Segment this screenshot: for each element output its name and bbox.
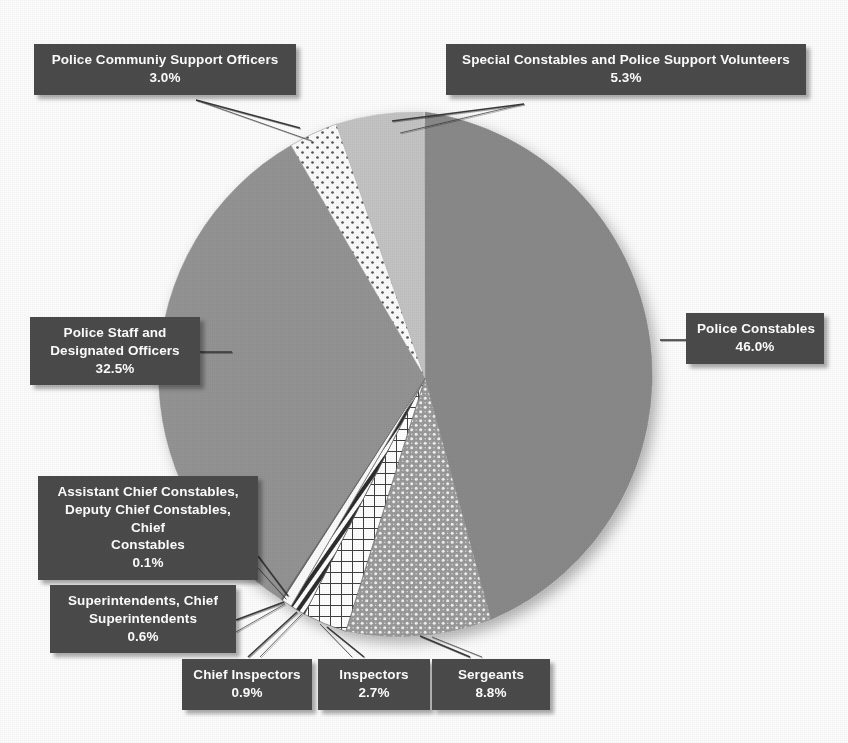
slice-label-police-constables-value: 46.0% (697, 338, 813, 356)
slice-label-inspectors-name: Inspectors (329, 666, 419, 684)
slice-label-police-constables-name: Police Constables (697, 320, 813, 338)
slice-label-pcso-name: Police Communiy Support Officers (45, 51, 285, 69)
slice-label-chief-constables[interactable]: Assistant Chief Constables, Deputy Chief… (38, 476, 258, 580)
slice-label-police-staff-name: Police Staff and Designated Officers (41, 324, 189, 360)
slice-label-police-constables[interactable]: Police Constables 46.0% (686, 313, 824, 364)
leader-line-pcso-2 (196, 100, 312, 141)
slice-label-chief-inspectors-name: Chief Inspectors (193, 666, 301, 684)
slice-label-special-constables-value: 5.3% (457, 69, 795, 87)
slice-label-sergeants[interactable]: Sergeants 8.8% (432, 659, 550, 710)
slice-label-sergeants-name: Sergeants (443, 666, 539, 684)
slice-label-superintendents-value: 0.6% (61, 628, 225, 646)
leader-line-chief-inspectors-2 (260, 614, 302, 657)
leader-line-chief-inspectors (248, 612, 297, 657)
leader-line-supt (236, 602, 284, 620)
leader-line-sergeants-2 (432, 637, 482, 657)
leader-line-pcso (196, 100, 300, 128)
slice-label-special-constables[interactable]: Special Constables and Police Support Vo… (446, 44, 806, 95)
slice-label-sergeants-value: 8.8% (443, 684, 539, 702)
slice-label-chief-inspectors-value: 0.9% (193, 684, 301, 702)
leader-line-sergeants (420, 636, 470, 657)
slice-label-pcso-value: 3.0% (45, 69, 285, 87)
slice-label-superintendents[interactable]: Superintendents, Chief Superintendents 0… (50, 585, 236, 653)
slice-label-inspectors-value: 2.7% (329, 684, 419, 702)
slice-label-chief-constables-name: Assistant Chief Constables, Deputy Chief… (49, 483, 247, 554)
slice-label-inspectors[interactable]: Inspectors 2.7% (318, 659, 430, 710)
slice-label-police-staff-value: 32.5% (41, 360, 189, 378)
slice-label-chief-inspectors[interactable]: Chief Inspectors 0.9% (182, 659, 312, 710)
slice-label-pcso[interactable]: Police Communiy Support Officers 3.0% (34, 44, 296, 95)
slice-label-chief-constables-value: 0.1% (49, 554, 247, 572)
pie-chart-figure: Police Communiy Support Officers 3.0% Sp… (0, 0, 848, 743)
slice-label-superintendents-name: Superintendents, Chief Superintendents (61, 592, 225, 628)
slice-label-special-constables-name: Special Constables and Police Support Vo… (457, 51, 795, 69)
slice-label-police-staff[interactable]: Police Staff and Designated Officers 32.… (30, 317, 200, 385)
